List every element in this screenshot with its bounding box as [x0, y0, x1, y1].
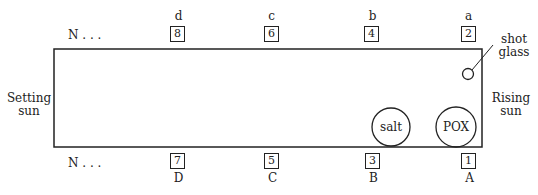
rising-sun-label: Rising sun	[484, 92, 538, 118]
shot-glass-circle	[463, 69, 474, 80]
north-marker-top: N . . .	[68, 29, 108, 42]
position-letter-a: a	[461, 10, 476, 23]
position-letter-B: B	[366, 172, 381, 185]
north-marker-bottom: N . . .	[68, 157, 108, 170]
position-box-5: 5	[264, 153, 279, 169]
position-letter-d: d	[171, 10, 186, 23]
position-box-8: 8	[170, 26, 185, 42]
position-letter-A: A	[462, 172, 477, 185]
shot-glass-label: shot glass	[494, 33, 534, 59]
position-letter-C: C	[265, 172, 280, 185]
position-box-4: 4	[364, 26, 379, 42]
position-box-1: 1	[461, 153, 476, 169]
position-letter-c: c	[264, 10, 279, 23]
pox-label: POX	[436, 121, 476, 134]
position-box-6: 6	[264, 26, 279, 42]
salt-label: salt	[371, 121, 411, 134]
position-letter-D: D	[171, 172, 186, 185]
position-letter-b: b	[365, 10, 380, 23]
position-box-3: 3	[365, 153, 380, 169]
position-box-7: 7	[170, 153, 185, 169]
setting-sun-label: Setting sun	[6, 92, 52, 118]
position-box-2: 2	[461, 26, 476, 42]
table-rectangle	[54, 49, 482, 147]
